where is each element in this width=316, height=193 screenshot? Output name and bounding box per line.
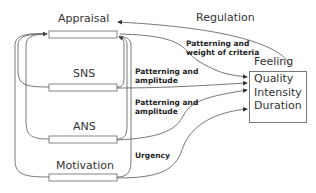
ans-edge-label: Patterning and amplitude	[135, 98, 198, 116]
intensity-text: Intensity	[250, 86, 306, 100]
sns-feedback-loop	[18, 34, 49, 87]
motivation-edge-label: Urgency	[135, 151, 170, 160]
quality-text: Quality	[250, 72, 306, 86]
ans-bar	[49, 136, 117, 143]
motivation-bar	[49, 174, 117, 181]
ans-label: ANS	[73, 120, 96, 133]
appraisal-label: Appraisal	[58, 12, 109, 25]
motivation-feedback-loop	[15, 34, 49, 177]
sns-riser	[117, 37, 124, 87]
sns-edge-label: Patterning and amplitude	[135, 67, 198, 85]
appraisal-edge-label: Patterning and weight of criteria	[186, 39, 259, 57]
regulation-label: Regulation	[196, 11, 255, 24]
motivation-to-box-arrow	[117, 109, 247, 178]
motivation-label: Motivation	[56, 159, 114, 172]
appraisal-bar	[49, 31, 117, 38]
sns-label: SNS	[73, 67, 95, 80]
feeling-label: Feeling	[254, 55, 293, 68]
feeling-dimensions-box: Quality Intensity Duration	[249, 71, 307, 123]
duration-text: Duration	[250, 99, 306, 113]
sns-bar	[49, 84, 117, 91]
